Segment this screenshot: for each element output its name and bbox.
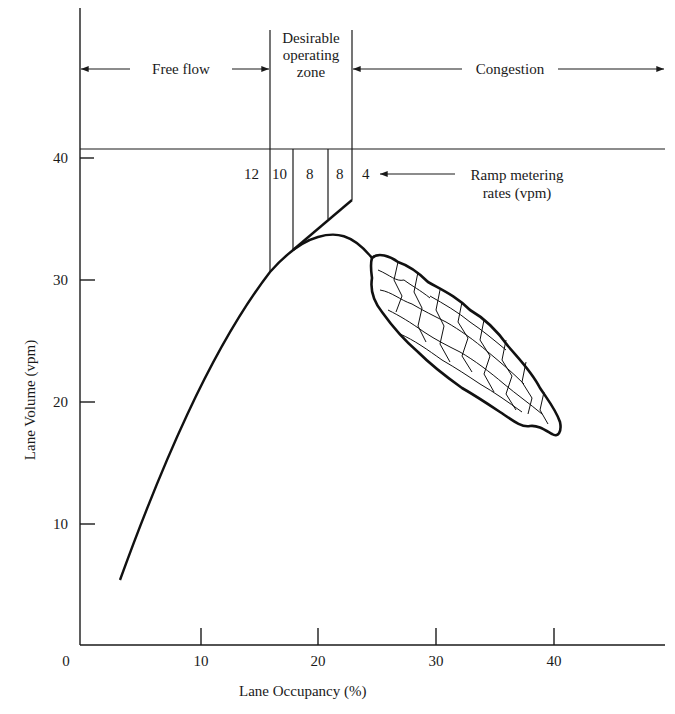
zone-line-3: zone	[271, 64, 351, 81]
ramp-line-2: rates (vpm)	[452, 184, 582, 202]
rate-10: 10	[272, 167, 287, 182]
zone-arrows	[81, 69, 664, 174]
x-tick-40: 40	[547, 654, 562, 669]
x-axis-title: Lane Occupancy (%)	[239, 684, 366, 699]
congestion-data-cloud	[371, 255, 561, 435]
y-tick-40: 40	[38, 151, 68, 166]
rate-4: 4	[362, 167, 370, 182]
ramp-line-1: Ramp metering	[452, 166, 582, 184]
x-tick-10: 10	[194, 654, 209, 669]
zone-line-2: operating	[271, 47, 351, 64]
rate-12: 12	[244, 167, 259, 182]
y-tick-20: 20	[38, 395, 68, 410]
axes	[80, 8, 665, 645]
congestion-label: Congestion	[474, 62, 546, 77]
y-axis-title: Lane Volume (vpm)	[22, 340, 39, 460]
rate-8a: 8	[306, 167, 314, 182]
x-tick-0: 0	[62, 654, 70, 669]
free-flow-label: Free flow	[150, 62, 212, 77]
chart-canvas	[0, 0, 675, 714]
ramp-metering-envelope	[293, 200, 352, 250]
desirable-zone-label: Desirable operating zone	[271, 30, 351, 81]
x-tick-20: 20	[311, 654, 326, 669]
y-tick-30: 30	[38, 273, 68, 288]
volume-occupancy-curve	[120, 235, 372, 580]
x-tick-30: 30	[429, 654, 444, 669]
zone-line-1: Desirable	[271, 30, 351, 47]
rate-8b: 8	[336, 167, 344, 182]
ramp-metering-label: Ramp metering rates (vpm)	[452, 166, 582, 202]
y-tick-10: 10	[38, 517, 68, 532]
